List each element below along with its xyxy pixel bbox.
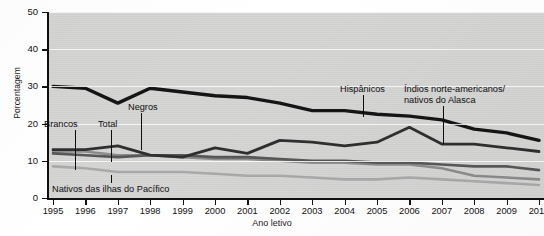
annotation-indios-line2: nativos do Alasca — [404, 95, 476, 105]
annotation-negros: Negros — [128, 102, 158, 113]
x-axis-tick — [53, 200, 54, 205]
annotation-indios-line1: Índios norte-americanos/ — [404, 84, 505, 94]
annotation-total: Total — [98, 119, 117, 130]
x-axis-tick — [539, 200, 540, 205]
y-axis-tick — [42, 198, 47, 199]
y-axis-tick — [42, 86, 47, 87]
x-axis-line — [47, 198, 544, 200]
x-axis-tick — [312, 200, 313, 205]
x-axis-tick — [118, 200, 119, 205]
y-axis-tick — [42, 12, 47, 13]
leader-line-nativos-pacifico — [111, 175, 112, 183]
x-axis-tick-label: 2010 — [519, 206, 544, 216]
x-axis-tick — [183, 200, 184, 205]
leader-line-total — [111, 130, 112, 162]
annotation-indios: Índios norte-americanos/ nativos do Alas… — [404, 84, 530, 105]
leader-line-hispanicos — [363, 95, 364, 117]
y-axis-tick-label: 30 — [0, 81, 38, 91]
leader-line-negros — [141, 113, 142, 150]
x-axis-tick — [474, 200, 475, 205]
gridline — [48, 161, 544, 162]
leader-line-brancos — [75, 130, 76, 170]
x-axis-tick — [377, 200, 378, 205]
annotation-hispanicos: Hispânicos — [340, 84, 385, 95]
x-axis-tick — [507, 200, 508, 205]
x-axis-tick — [247, 200, 248, 205]
y-axis-tick-label: 0 — [0, 193, 38, 203]
series-line — [53, 127, 539, 157]
gridline — [48, 124, 544, 125]
annotation-nativos-pacifico: Nativos das ilhas do Pacífico — [52, 184, 169, 195]
y-axis-title: Porcentagem — [12, 38, 22, 148]
annotation-brancos: Brancos — [44, 119, 78, 130]
y-axis-line — [47, 12, 49, 199]
y-axis-tick — [42, 161, 47, 162]
y-axis-tick — [42, 49, 47, 50]
y-axis-tick-label: 20 — [0, 119, 38, 129]
leader-line-indios — [443, 106, 444, 144]
x-axis-tick — [345, 200, 346, 205]
chart-figure: Porcentagem 0102030405019951996199719981… — [0, 0, 544, 236]
gridline — [48, 12, 544, 13]
x-axis-tick — [150, 200, 151, 205]
gridline — [48, 49, 544, 50]
y-axis-tick-label: 40 — [0, 44, 38, 54]
series-line — [53, 166, 539, 185]
x-axis-tick — [280, 200, 281, 205]
y-axis-tick-label: 50 — [0, 7, 38, 17]
y-axis-tick-label: 10 — [0, 156, 38, 166]
x-axis-tick — [442, 200, 443, 205]
x-axis-title: Ano letivo — [0, 218, 544, 228]
x-axis-tick — [85, 200, 86, 205]
x-axis-tick — [215, 200, 216, 205]
x-axis-tick — [409, 200, 410, 205]
